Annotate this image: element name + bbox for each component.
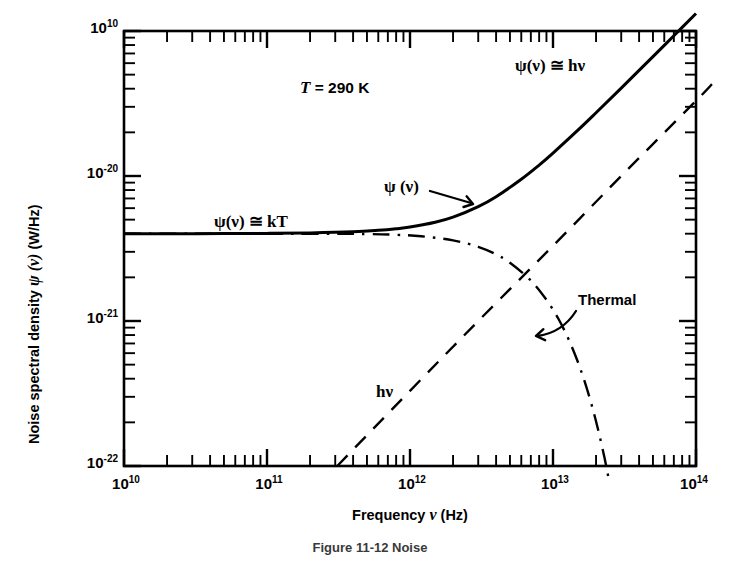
- annotation-psi-curve: ψ (ν): [384, 178, 419, 195]
- annotation-thermal-curve: Thermal: [578, 292, 636, 307]
- annotation-psi-approx-hnu: ψ(ν) ≅ hν: [515, 57, 585, 74]
- curve-h-nu: [337, 83, 713, 466]
- annotation-hnu-curve: hν: [376, 383, 393, 400]
- annotation-psi-approx-kT: ψ(ν) ≅ kT: [214, 213, 288, 230]
- axis-ticks: [124, 31, 696, 466]
- y-tick-label-1e-20: 10-20: [87, 165, 118, 180]
- x-tick-label-1e13: 1013: [541, 476, 569, 491]
- x-tick-label-1e14: 1014: [680, 476, 708, 491]
- y-axis-title: Noise spectral density ψ (ν) (W/Hz): [26, 204, 42, 444]
- figure-container: 1010 10-20 10-21 10-22 1010 1011 1012 10…: [0, 0, 740, 563]
- x-tick-label-1e11: 1011: [255, 476, 282, 491]
- curve-thermal: [124, 234, 609, 479]
- x-axis-title: Frequency ν (Hz): [352, 507, 468, 523]
- figure-caption: Figure 11-12 Noise: [0, 540, 740, 555]
- x-tick-label-1e12: 1012: [398, 476, 426, 491]
- y-tick-label-1e-21: 10-21: [87, 310, 118, 325]
- data-curves: [124, 14, 713, 479]
- y-tick-label-1e-19: 1010: [90, 20, 118, 35]
- x-tick-label-1e10: 1010: [112, 476, 140, 491]
- axes-frame: [124, 31, 696, 466]
- y-tick-label-1e-22: 10-22: [87, 455, 118, 470]
- chart-plot-area: [0, 0, 740, 563]
- annotation-temperature: T = 290 K: [300, 79, 369, 96]
